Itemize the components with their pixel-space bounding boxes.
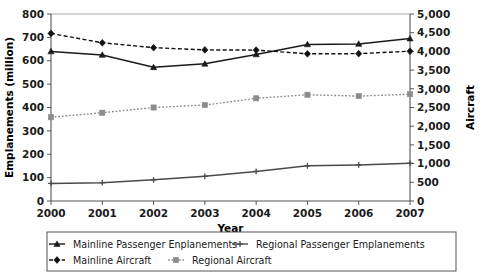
- left-axis-tick-label: 500: [22, 78, 44, 90]
- right-axis-tick-label: 0: [417, 195, 424, 207]
- series-marker: [254, 96, 259, 101]
- series-marker: [253, 47, 259, 54]
- legend-label: Regional Aircraft: [192, 255, 272, 266]
- y-axis-title: Emplanements (million): [3, 37, 15, 178]
- x-axis-tick-label: 2002: [139, 207, 168, 219]
- series-marker: [407, 92, 412, 97]
- right-axis-tick-label: 3,500: [417, 64, 450, 76]
- right-axis-tick-label: 4,500: [417, 26, 450, 38]
- x-axis-tick-label: 2006: [344, 207, 373, 219]
- series-marker: [202, 102, 207, 107]
- right-axis-tick-label: 2,500: [417, 101, 450, 113]
- legend-label: Mainline Passenger Enplanements: [73, 239, 237, 250]
- left-axis-tick-label: 200: [22, 148, 44, 160]
- series-marker: [150, 44, 156, 51]
- series-marker: [202, 47, 208, 54]
- left-axis-tick-label: 800: [22, 8, 44, 20]
- left-axis-tick-label: 300: [22, 125, 44, 137]
- series-marker: [356, 50, 362, 57]
- right-axis-tick-label: 500: [417, 176, 439, 188]
- y2-axis-title: Aircraft: [464, 85, 476, 130]
- series-marker: [305, 92, 310, 97]
- left-axis-tick-label: 400: [22, 101, 44, 113]
- x-axis-tick-label: 2003: [190, 207, 219, 219]
- series-marker: [407, 48, 413, 55]
- left-axis-tick-label: 100: [22, 171, 44, 183]
- series-marker: [48, 30, 54, 37]
- x-axis-tick-label: 2005: [293, 207, 322, 219]
- right-axis-tick-label: 1,500: [417, 139, 450, 151]
- right-axis-tick-label: 1,000: [417, 157, 450, 169]
- legend-label: Mainline Aircraft: [73, 255, 152, 266]
- left-axis-tick-label: 600: [22, 54, 44, 66]
- left-axis-tick-label: 700: [22, 31, 44, 43]
- x-axis-tick-label: 2000: [36, 207, 65, 219]
- x-axis-tick-label: 2001: [88, 207, 117, 219]
- series-line: [51, 163, 410, 183]
- series-marker: [356, 93, 361, 98]
- x-axis-tick-label: 2007: [395, 207, 424, 219]
- right-axis-tick-label: 4,000: [417, 45, 450, 57]
- right-axis-tick-label: 5,000: [417, 8, 450, 20]
- series-marker: [48, 115, 53, 120]
- series-marker: [151, 105, 156, 110]
- left-axis-tick-label: 0: [37, 195, 44, 207]
- series-marker: [304, 50, 310, 57]
- line-chart: 010020030040050060070080005001,0001,5002…: [0, 0, 483, 278]
- right-axis-tick-label: 3,000: [417, 83, 450, 95]
- legend-swatch-marker: [54, 257, 60, 264]
- chart-container: 010020030040050060070080005001,0001,5002…: [0, 0, 483, 278]
- legend-swatch-marker: [173, 257, 178, 262]
- series-marker: [100, 110, 105, 115]
- legend-label: Regional Passenger Emplanements: [256, 239, 425, 250]
- series-marker: [99, 39, 105, 46]
- x-axis-tick-label: 2004: [242, 207, 271, 219]
- right-axis-tick-label: 2,000: [417, 120, 450, 132]
